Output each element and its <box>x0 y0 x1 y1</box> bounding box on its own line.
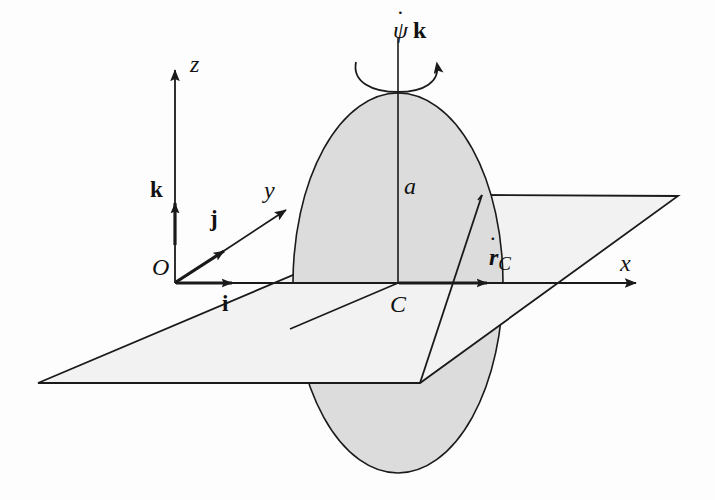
mechanics-diagram <box>0 0 715 500</box>
axis-label-z: z <box>190 52 199 76</box>
precession-arrow <box>355 62 437 92</box>
overdot-r: ˙ <box>490 235 496 252</box>
unit-vector-j-arrow <box>176 251 224 282</box>
point-label-C: C <box>390 292 406 316</box>
radius-label-a: a <box>404 174 416 198</box>
point-label-O: O <box>152 255 169 279</box>
psi-symbol: ψ˙ <box>393 18 408 42</box>
r-symbol: r˙ <box>489 245 498 269</box>
axis-label-x: x <box>620 251 631 275</box>
unit-vector-label-k: k <box>150 178 163 201</box>
unit-vector-label-j: j <box>210 207 218 230</box>
basis-k-symbol: k <box>413 17 426 43</box>
velocity-vector-label: r˙C <box>489 245 511 273</box>
axis-label-y: y <box>264 178 275 202</box>
subscript-C: C <box>498 253 511 274</box>
precession-vector-label: ψ˙k <box>393 18 426 42</box>
unit-vector-label-i: i <box>222 292 228 315</box>
overdot-psi: ˙ <box>398 9 404 26</box>
figure-canvas: z y x O C k j i a ψ˙k r˙C <box>0 0 715 500</box>
